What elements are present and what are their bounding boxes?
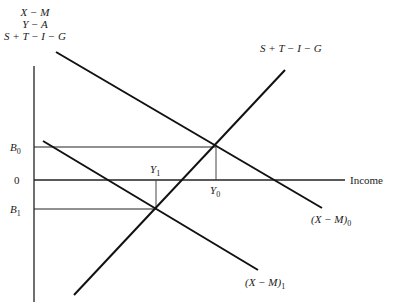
xm1-curve	[43, 141, 258, 270]
tick-b1: B1	[10, 203, 21, 215]
diagram-svg	[0, 0, 393, 308]
xm0-curve	[56, 52, 322, 208]
tick-y1: Y1	[150, 163, 160, 175]
stig-curve	[74, 70, 285, 295]
tick-y0: Y0	[210, 184, 220, 196]
income-label: Income	[350, 174, 383, 186]
xm1-curve-label: (X − M)1	[245, 276, 285, 288]
y-axis-label-stig: S + T − I − G	[0, 30, 75, 42]
stig-curve-label: S + T − I − G	[260, 42, 322, 54]
y-axis-label-xm: X − M	[0, 6, 75, 18]
y-axis-label-ya: Y − A	[0, 18, 75, 30]
tick-b0: B0	[10, 141, 21, 153]
xm0-curve-label: (X − M)0	[311, 213, 351, 225]
tick-zero: 0	[14, 174, 20, 186]
diagram-canvas: X − M Y − A S + T − I − G B0 0 B1 Y1 Y0 …	[0, 0, 393, 308]
